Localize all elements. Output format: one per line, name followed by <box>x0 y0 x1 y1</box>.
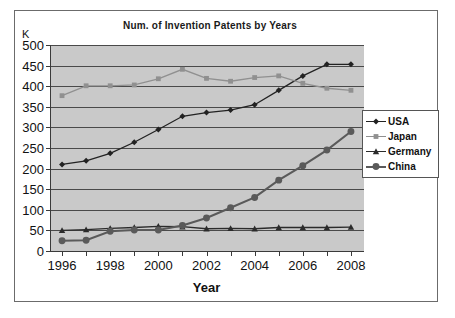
data-point <box>132 83 137 88</box>
data-point <box>204 76 209 81</box>
series-line <box>62 132 351 241</box>
data-point <box>300 73 306 79</box>
legend-item-label: Germany <box>388 146 431 157</box>
data-point <box>155 227 162 234</box>
data-point <box>276 87 282 93</box>
legend-item-label: Japan <box>388 131 417 142</box>
data-point <box>203 215 210 222</box>
chart-legend: USAJapanGermanyChina <box>362 110 439 178</box>
data-point <box>180 67 185 72</box>
data-point <box>300 81 305 86</box>
data-point <box>228 107 234 113</box>
series-germany <box>59 223 354 233</box>
data-point <box>107 150 113 156</box>
data-point <box>59 237 66 244</box>
triangle-marker-icon <box>366 146 386 157</box>
data-point <box>228 79 233 84</box>
data-point <box>83 237 90 244</box>
series-japan <box>60 67 354 98</box>
data-point <box>252 102 258 108</box>
x-axis-title: Year <box>50 280 363 295</box>
legend-item-label: China <box>388 161 416 172</box>
data-point <box>227 204 234 211</box>
square-marker-icon <box>366 131 386 142</box>
data-point <box>324 61 330 67</box>
data-point <box>252 75 257 80</box>
data-point <box>324 86 329 91</box>
data-point <box>275 177 282 184</box>
data-point <box>83 158 89 164</box>
data-point <box>155 126 161 132</box>
data-point <box>204 110 210 116</box>
data-point <box>179 222 186 229</box>
data-point <box>131 227 138 234</box>
data-point <box>348 128 355 135</box>
data-point <box>60 93 65 98</box>
data-point <box>59 161 65 167</box>
circle-marker-icon <box>366 161 386 172</box>
data-point <box>276 74 281 79</box>
data-point <box>299 162 306 169</box>
data-point <box>156 76 161 81</box>
data-point <box>108 83 113 88</box>
data-point <box>348 61 354 67</box>
legend-item-germany[interactable]: Germany <box>365 144 436 159</box>
legend-item-japan[interactable]: Japan <box>365 129 436 144</box>
data-point <box>251 194 258 201</box>
data-point <box>179 113 185 119</box>
diamond-marker-icon <box>366 116 386 127</box>
data-point <box>107 228 114 235</box>
data-point <box>349 88 354 93</box>
legend-item-label: USA <box>388 116 409 127</box>
legend-item-china[interactable]: China <box>365 159 436 174</box>
data-point <box>323 147 330 154</box>
data-point <box>131 139 137 145</box>
legend-item-usa[interactable]: USA <box>365 114 436 129</box>
data-point <box>84 83 89 88</box>
